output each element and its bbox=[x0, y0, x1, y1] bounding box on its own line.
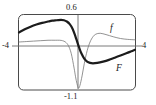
function-plot-figure: 0.6 -1.1 -4 4 f F bbox=[0, 0, 156, 105]
curve-F-path bbox=[19, 20, 135, 64]
curve-F-label: F bbox=[116, 64, 122, 74]
curve-f-label: f bbox=[110, 24, 113, 34]
x-min-label: -4 bbox=[2, 41, 9, 50]
y-min-label: -1.1 bbox=[64, 92, 77, 101]
x-max-label: 4 bbox=[142, 41, 146, 50]
plot-canvas bbox=[0, 0, 156, 105]
y-max-label: 0.6 bbox=[66, 3, 77, 12]
